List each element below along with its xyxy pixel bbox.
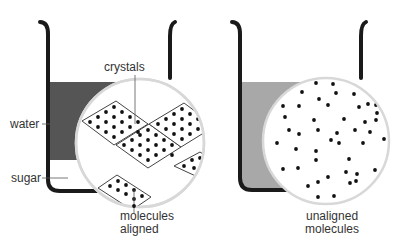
molecule-dot	[297, 104, 301, 108]
molecule-dot	[314, 81, 318, 85]
molecule-dot	[294, 147, 298, 151]
molecule-dot	[357, 105, 361, 109]
molecule-dot	[314, 149, 318, 153]
unaligned-caption-line2: molecules	[305, 222, 359, 236]
molecule-dot	[344, 170, 348, 174]
molecule-dot	[306, 184, 310, 188]
molecule-dot	[296, 166, 300, 170]
molecule-dot	[382, 137, 386, 141]
molecule-dot	[332, 194, 336, 198]
molecule-dot	[334, 91, 338, 95]
molecule-dot	[375, 111, 379, 115]
crystals-label: crystals	[104, 60, 145, 74]
molecule-dot	[275, 141, 279, 145]
molecule-dot	[363, 120, 367, 124]
molecule-dot	[316, 128, 320, 132]
molecule-dot	[373, 168, 377, 172]
molecule-dot	[281, 167, 285, 171]
molecule-dot	[361, 141, 365, 145]
right-beaker-panel: unaligned molecules	[232, 22, 389, 236]
left-beaker-right-wall	[170, 22, 175, 78]
molecule-dot	[335, 131, 339, 135]
molecule-dot	[354, 179, 358, 183]
molecule-dot	[355, 172, 359, 176]
sugar-crystallization-diagram: crystals water sugar molecules aligned u…	[0, 0, 399, 245]
molecule-dot	[326, 103, 330, 107]
molecules-aligned-caption-line2: aligned	[120, 222, 159, 236]
molecule-dot	[374, 118, 378, 122]
unaligned-caption-line1: unaligned	[306, 209, 358, 223]
molecule-dot	[314, 158, 318, 162]
sugar-label: sugar	[11, 171, 41, 185]
molecules-aligned-caption-line1: molecules	[120, 209, 174, 223]
molecule-dot	[316, 195, 320, 199]
molecule-dot	[297, 132, 301, 136]
unaligned-magnifier	[263, 78, 389, 204]
molecule-dot	[329, 138, 333, 142]
molecule-dot	[347, 157, 351, 161]
molecule-dot	[316, 180, 320, 184]
molecule-dot	[281, 104, 285, 108]
molecule-dot	[366, 102, 370, 106]
molecule-dot	[348, 181, 352, 185]
molecule-dot	[352, 92, 356, 96]
aligned-magnifier	[76, 79, 215, 210]
molecule-dot	[312, 118, 316, 122]
molecule-dot	[326, 175, 330, 179]
molecule-dot	[300, 90, 304, 94]
molecule-dot	[368, 130, 372, 134]
molecule-dot	[331, 82, 335, 86]
right-beaker-right-wall	[361, 22, 366, 78]
molecule-dot	[342, 117, 346, 121]
molecule-dot	[353, 128, 357, 132]
left-beaker-panel: crystals water sugar molecules aligned	[9, 22, 215, 236]
molecule-dot	[337, 141, 341, 145]
molecule-dot	[317, 97, 321, 101]
molecule-dot	[287, 128, 291, 132]
water-label: water	[9, 117, 39, 131]
molecule-dot	[283, 115, 287, 119]
